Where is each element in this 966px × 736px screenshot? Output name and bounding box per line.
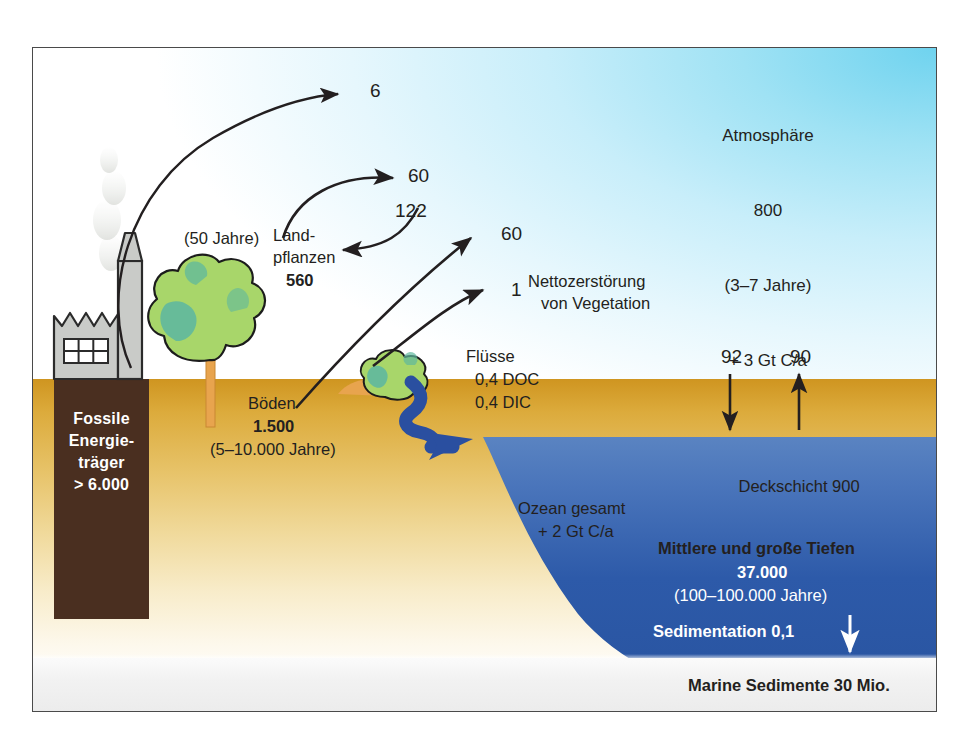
carbon-cycle-figure: Fossile Energie- träger > 6.000 [0, 0, 966, 736]
flux-value-vegetation-destruction: 1 [511, 279, 522, 301]
flux-value-soil-respiration: 60 [501, 223, 522, 245]
flux-value-photosynthesis: 122 [395, 200, 427, 222]
atmosphere-stock: 800 [633, 198, 903, 223]
ocean-total-line-2: + 2 Gt C/a [538, 521, 614, 542]
flux-value-fossil-emission: 6 [370, 80, 381, 102]
vegetation-loss-line-2: von Vegetation [541, 293, 650, 314]
land-plants-residence: (50 Jahre) [184, 228, 259, 249]
flux-value-plant-respiration: 60 [408, 165, 429, 187]
land-plants-stock: 560 [286, 270, 314, 291]
soil-stock: 1.500 [253, 416, 294, 437]
atmosphere-name: Atmosphäre [633, 123, 903, 148]
factory-icon [54, 233, 142, 379]
ocean-surface-layer: Deckschicht 900 [711, 455, 860, 518]
ocean-sedimentation: Sedimentation 0,1 [653, 621, 794, 642]
soil-name: Böden [248, 393, 296, 414]
figure-frame: Fossile Energie- träger > 6.000 [32, 47, 937, 712]
atmosphere-residence: (3–7 Jahre) [633, 273, 903, 298]
soil-residence: (5–10.000 Jahre) [210, 439, 336, 460]
land-plants-name-2: pflanzen [273, 247, 335, 268]
ocean-deep-stock: 37.000 [737, 562, 787, 583]
rivers-name: Flüsse [466, 346, 515, 367]
rivers-doc: 0,4 DOC [475, 369, 539, 390]
marine-sediments-label: Marine Sedimente 30 Mio. [688, 675, 890, 696]
atmosphere-change: + 3 Gt C/a [633, 348, 903, 373]
ocean-total-line-1: Ozean gesamt [518, 498, 625, 519]
flux-value-ocean-uptake: 92 [721, 346, 742, 368]
rivers-dic: 0,4 DIC [475, 392, 531, 413]
land-plants-name-1: Land- [273, 225, 315, 246]
ocean-deep-name: Mittlere und große Tiefen [658, 538, 855, 559]
flux-value-ocean-release: 90 [790, 346, 811, 368]
atmosphere-label-group: Atmosphäre 800 (3–7 Jahre) + 3 Gt C/a [633, 73, 903, 423]
river-arrow [406, 382, 473, 460]
ocean-deep-residence: (100–100.000 Jahre) [674, 585, 827, 606]
vegetation-loss-line-1: Nettozerstörung [528, 271, 645, 292]
